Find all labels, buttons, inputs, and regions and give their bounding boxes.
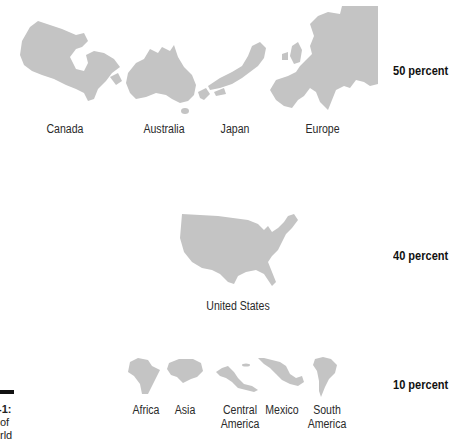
africa-map xyxy=(126,356,162,396)
region-label-united-states: United States xyxy=(203,299,273,313)
honshu-shape xyxy=(208,42,266,90)
region-label-africa: Africa xyxy=(127,403,166,417)
region-label-central-america: Central America xyxy=(218,403,262,431)
caption-figure-number: -1: xyxy=(0,402,11,416)
kyushu-shape xyxy=(198,88,210,100)
asia-shape xyxy=(167,359,203,383)
caption-line-2: of xyxy=(0,415,9,429)
central-america-shape xyxy=(216,366,258,392)
australia-map xyxy=(126,43,201,115)
region-label-australia: Australia xyxy=(138,122,191,136)
africa-shape xyxy=(128,358,160,394)
tasmania-shape xyxy=(181,108,189,114)
region-label-japan: Japan xyxy=(213,122,257,136)
united-states-map xyxy=(178,212,302,290)
percent-label-40: 40 percent xyxy=(393,248,448,263)
region-label-asia: Asia xyxy=(172,403,198,417)
region-label-canada: Canada xyxy=(43,122,87,136)
central-america-map xyxy=(216,362,260,394)
percent-label-10: 10 percent xyxy=(393,377,448,392)
ireland-shape xyxy=(282,52,288,60)
central-america-line: Central America xyxy=(221,403,260,431)
south-america-shape xyxy=(313,357,337,397)
percent-label-50: 50 percent xyxy=(393,63,448,78)
caption-line-3: rld xyxy=(0,428,12,441)
shikoku-shape xyxy=(214,88,226,96)
region-label-mexico: Mexico xyxy=(263,403,302,417)
mexico-shape xyxy=(258,358,304,386)
caption-rule xyxy=(0,390,14,394)
region-label-south-america: South America xyxy=(308,403,347,431)
europe-map xyxy=(270,4,380,114)
japan-map xyxy=(198,40,268,102)
south-america-map xyxy=(313,355,339,399)
canada-map xyxy=(18,15,123,105)
caribbean-island-shape xyxy=(242,364,250,367)
south-america-line: South America xyxy=(308,403,347,431)
region-label-europe: Europe xyxy=(298,122,346,136)
asia-map xyxy=(167,357,205,387)
great-britain-shape xyxy=(290,42,302,64)
mexico-map xyxy=(258,356,306,390)
united-states-shape xyxy=(180,214,298,286)
newfoundland-shape xyxy=(110,73,122,85)
australia-shape xyxy=(126,45,196,103)
canada-shape xyxy=(20,21,120,101)
